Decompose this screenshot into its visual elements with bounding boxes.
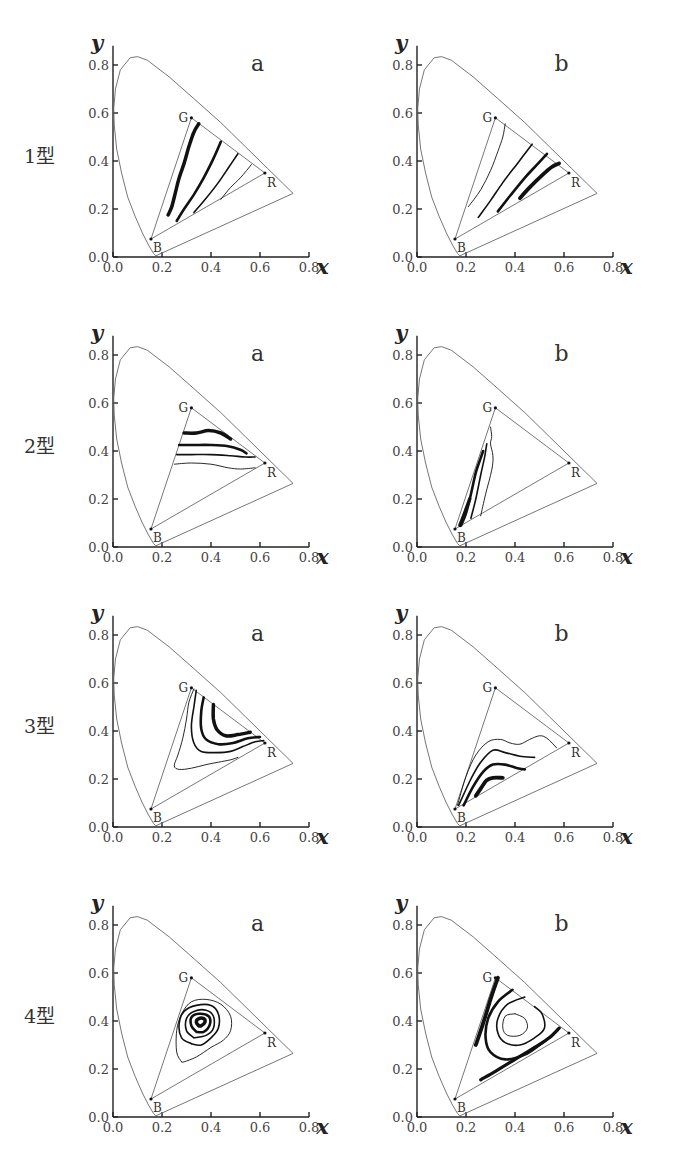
- x-axis-label: x: [315, 544, 329, 569]
- panel-letter: b: [555, 51, 569, 76]
- x-tick-label: 0.6: [554, 260, 575, 275]
- x-tick-label: 0.6: [250, 830, 271, 845]
- spectrum-locus: [114, 57, 293, 256]
- vertex-label-b: B: [457, 811, 466, 825]
- vertex-label-g: G: [178, 111, 188, 125]
- panel-letter: a: [251, 911, 264, 936]
- contour-line: [503, 1014, 528, 1037]
- gamut-triangle: [455, 978, 569, 1099]
- chart-panel-2b: 0.00.20.40.60.80.00.20.40.60.8xyGRBb: [392, 320, 633, 569]
- vertex-point-r: [567, 171, 570, 174]
- x-tick-label: 0.6: [554, 830, 575, 845]
- spectrum-locus: [114, 917, 293, 1116]
- spectrum-locus: [418, 347, 597, 546]
- x-axis-label: x: [619, 254, 633, 279]
- row-label: 1型: [24, 145, 55, 167]
- x-tick-label: 0.2: [456, 260, 477, 275]
- panel-letter: b: [555, 341, 569, 366]
- gamut-triangle: [151, 118, 265, 239]
- y-tick-label: 0.4: [88, 444, 109, 459]
- y-tick-label: 0.4: [392, 154, 413, 169]
- panel-letter: a: [251, 621, 264, 646]
- vertex-label-b: B: [457, 1101, 466, 1115]
- y-tick-label: 0.6: [392, 396, 413, 411]
- y-tick-label: 0.2: [88, 772, 109, 787]
- panel-letter: a: [251, 51, 264, 76]
- x-tick-label: 0.4: [201, 1120, 222, 1135]
- vertex-point-r: [567, 1031, 570, 1034]
- vertex-label-g: G: [482, 401, 492, 415]
- vertex-label-b: B: [457, 241, 466, 255]
- x-tick-label: 0.6: [250, 1120, 271, 1135]
- x-tick-label: 0.4: [505, 1120, 526, 1135]
- vertex-point-r: [263, 171, 266, 174]
- row-label: 4型: [24, 1005, 55, 1027]
- y-tick-label: 0.4: [392, 1014, 413, 1029]
- y-tick-label: 0.8: [88, 58, 109, 73]
- vertex-label-b: B: [457, 531, 466, 545]
- contour-line: [497, 997, 545, 1045]
- vertex-label-r: R: [267, 746, 277, 760]
- x-axis-label: x: [619, 544, 633, 569]
- contour-line: [476, 978, 498, 1045]
- x-tick-label: 0.2: [152, 260, 173, 275]
- vertex-label-r: R: [571, 1036, 581, 1050]
- y-tick-label: 0.8: [88, 628, 109, 643]
- x-axis-label: x: [315, 824, 329, 849]
- y-axis-label: y: [394, 30, 409, 55]
- y-tick-label: 0.6: [88, 676, 109, 691]
- panel-letter: a: [251, 341, 264, 366]
- x-tick-label: 0.2: [152, 830, 173, 845]
- contour-line: [476, 778, 503, 796]
- y-axis-label: y: [394, 890, 409, 915]
- cie-contour-figure: 1型0.00.20.40.60.80.00.20.40.60.8xyGRBa0.…: [0, 0, 685, 1172]
- row-label: 2型: [24, 435, 55, 457]
- vertex-label-r: R: [267, 466, 277, 480]
- vertex-point-g: [494, 686, 497, 689]
- chart-panel-1b: 0.00.20.40.60.80.00.20.40.60.8xyGRBb: [392, 30, 633, 279]
- vertex-point-g: [190, 686, 193, 689]
- y-tick-label: 0.2: [392, 772, 413, 787]
- contour-line: [457, 736, 556, 806]
- contour-line: [168, 124, 199, 215]
- contour-line: [498, 154, 547, 212]
- contour-line: [174, 463, 255, 469]
- contour-line: [174, 689, 238, 770]
- x-axis-label: x: [619, 1114, 633, 1139]
- gamut-triangle: [455, 118, 569, 239]
- vertex-label-g: G: [482, 971, 492, 985]
- y-axis-label: y: [90, 890, 105, 915]
- y-tick-label: 0.8: [392, 348, 413, 363]
- x-tick-label: 0.2: [152, 1120, 173, 1135]
- y-tick-label: 0.0: [88, 540, 109, 555]
- y-tick-label: 0.4: [88, 1014, 109, 1029]
- vertex-point-r: [263, 1031, 266, 1034]
- vertex-point-g: [494, 116, 497, 119]
- vertex-point-g: [190, 406, 193, 409]
- panel-letter: b: [555, 621, 569, 646]
- vertex-label-b: B: [153, 531, 162, 545]
- y-tick-label: 0.6: [392, 106, 413, 121]
- vertex-label-r: R: [571, 746, 581, 760]
- panel-letter: b: [555, 911, 569, 936]
- y-tick-label: 0.4: [392, 724, 413, 739]
- y-tick-label: 0.8: [88, 348, 109, 363]
- x-tick-label: 0.2: [152, 550, 173, 565]
- x-tick-label: 0.4: [505, 830, 526, 845]
- y-tick-label: 0.0: [392, 820, 413, 835]
- contour-line: [520, 163, 559, 198]
- y-tick-label: 0.2: [392, 202, 413, 217]
- vertex-label-b: B: [153, 811, 162, 825]
- y-axis-label: y: [90, 320, 105, 345]
- chart-panel-3a: 0.00.20.40.60.80.00.20.40.60.8xyGRBa: [88, 600, 329, 849]
- x-tick-label: 0.4: [201, 260, 222, 275]
- x-axis-label: x: [315, 1114, 329, 1139]
- contour-line: [481, 427, 493, 516]
- vertex-label-r: R: [267, 1036, 277, 1050]
- y-tick-label: 0.8: [88, 918, 109, 933]
- contour-line: [179, 445, 246, 453]
- chart-panel-4a: 0.00.20.40.60.80.00.20.40.60.8xyGRBa: [88, 890, 329, 1139]
- y-tick-label: 0.6: [88, 966, 109, 981]
- x-tick-label: 0.6: [250, 550, 271, 565]
- y-tick-label: 0.6: [88, 106, 109, 121]
